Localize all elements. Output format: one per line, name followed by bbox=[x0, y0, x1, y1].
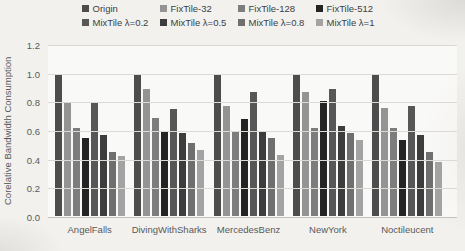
legend-item-4: FixTile-512 bbox=[316, 3, 384, 14]
legend-label: Origin bbox=[93, 3, 118, 14]
legend-label: FixTile-128 bbox=[249, 3, 296, 14]
legend-item-3: FixTile-128 bbox=[238, 3, 306, 14]
legend-item-1: Origin bbox=[82, 3, 150, 14]
bar bbox=[302, 92, 309, 216]
bar bbox=[311, 128, 318, 216]
x-axis-label: Noctileucent bbox=[368, 224, 447, 235]
bar bbox=[390, 128, 397, 216]
y-tick-label: 1.2 bbox=[27, 40, 40, 51]
chart-legend: OriginFixTile-32FixTile-128FixTile-512Mi… bbox=[0, 3, 465, 28]
x-axis-line bbox=[48, 217, 457, 218]
legend-label: MixTile λ=0.5 bbox=[171, 17, 227, 28]
bar-chart-figure: OriginFixTile-32FixTile-128FixTile-512Mi… bbox=[0, 0, 465, 251]
legend-label: FixTile-32 bbox=[171, 3, 212, 14]
x-axis: AngelFallsDivingWithSharksMercedesBenzNe… bbox=[50, 224, 447, 235]
bar bbox=[100, 135, 107, 216]
bar bbox=[320, 101, 327, 216]
bar bbox=[188, 143, 195, 216]
x-axis-label: NewYork bbox=[288, 224, 367, 235]
bar bbox=[347, 133, 354, 216]
bar bbox=[170, 109, 177, 216]
bar bbox=[118, 156, 125, 216]
bar bbox=[277, 155, 284, 216]
x-axis-label: MercedesBenz bbox=[209, 224, 288, 235]
y-tick-label: 1.0 bbox=[27, 68, 40, 79]
legend-swatch-icon bbox=[82, 19, 89, 26]
bar bbox=[241, 119, 248, 216]
legend-swatch-icon bbox=[238, 19, 245, 26]
legend-label: FixTile-512 bbox=[327, 3, 374, 14]
gridline bbox=[48, 74, 457, 75]
y-axis: 1.21.00.80.60.40.20.0 bbox=[16, 45, 42, 217]
y-tick-label: 0.0 bbox=[27, 212, 40, 223]
bar bbox=[372, 74, 379, 217]
bar bbox=[109, 152, 116, 216]
bar bbox=[417, 135, 424, 216]
legend-item-8: MixTile λ=1 bbox=[316, 17, 384, 28]
bar bbox=[381, 108, 388, 216]
legend-item-7: MixTile λ=0.8 bbox=[238, 17, 306, 28]
bar bbox=[259, 132, 266, 216]
gridline bbox=[48, 160, 457, 161]
gridline bbox=[48, 45, 457, 46]
legend-swatch-icon bbox=[82, 5, 89, 12]
legend-swatch-icon bbox=[316, 19, 323, 26]
bar bbox=[55, 74, 62, 217]
y-tick-label: 0.8 bbox=[27, 97, 40, 108]
bar bbox=[73, 128, 80, 216]
bar bbox=[356, 140, 363, 216]
bar bbox=[426, 152, 433, 216]
bar bbox=[408, 106, 415, 216]
y-tick-label: 0.4 bbox=[27, 154, 40, 165]
y-tick-label: 0.2 bbox=[27, 183, 40, 194]
x-axis-label: AngelFalls bbox=[50, 224, 129, 235]
bar bbox=[143, 89, 150, 216]
plot-area bbox=[48, 45, 457, 217]
legend-item-6: MixTile λ=0.5 bbox=[160, 17, 228, 28]
legend-swatch-icon bbox=[316, 5, 323, 12]
legend-label: MixTile λ=1 bbox=[327, 17, 375, 28]
bar bbox=[329, 89, 336, 216]
bar bbox=[161, 132, 168, 216]
y-axis-title: Corelative Bandwidth Consumption bbox=[1, 45, 14, 217]
legend-label: MixTile λ=0.2 bbox=[93, 17, 149, 28]
legend-swatch-icon bbox=[238, 5, 245, 12]
legend-label: MixTile λ=0.8 bbox=[249, 17, 305, 28]
legend-item-2: FixTile-32 bbox=[160, 3, 228, 14]
bar bbox=[214, 74, 221, 217]
bar bbox=[399, 140, 406, 216]
bar bbox=[82, 138, 89, 216]
y-tick-label: 0.6 bbox=[27, 126, 40, 137]
bar bbox=[232, 131, 239, 217]
legend-swatch-icon bbox=[160, 5, 167, 12]
legend-item-5: MixTile λ=0.2 bbox=[82, 17, 150, 28]
bar bbox=[268, 138, 275, 216]
bar bbox=[134, 74, 141, 217]
bar bbox=[179, 133, 186, 216]
gridline bbox=[48, 102, 457, 103]
bar bbox=[223, 106, 230, 216]
legend-swatch-icon bbox=[160, 19, 167, 26]
bar bbox=[152, 118, 159, 216]
x-axis-label: DivingWithSharks bbox=[129, 224, 208, 235]
bar bbox=[293, 74, 300, 217]
gridline bbox=[48, 188, 457, 189]
bar bbox=[338, 126, 345, 216]
gridline bbox=[48, 131, 457, 132]
bar bbox=[250, 92, 257, 216]
